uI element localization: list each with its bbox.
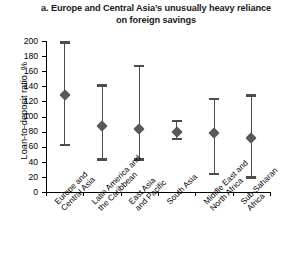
figure-panel-a: a. Europe and Central Asia’s unusually h… [0,0,281,263]
data-point-marker [208,127,219,138]
chart-title-line-1: a. Europe and Central Asia’s unusually h… [41,3,235,13]
error-bar-cap-lower [172,138,182,140]
y-axis-tick-label: 60 [12,142,38,151]
data-point-marker [96,120,107,131]
data-point-marker [171,126,182,137]
data-point-marker [246,132,257,143]
y-axis-tick-label: 40 [12,158,38,167]
error-bar-cap-lower [209,173,219,175]
y-axis-tick-label: 100 [12,112,38,121]
x-axis-tick [195,192,196,196]
chart-title: a. Europe and Central Asia’s unusually h… [36,3,276,26]
y-axis-tick-label: 140 [12,82,38,91]
data-point-marker [134,123,145,134]
y-axis-tick-label: 160 [12,67,38,76]
error-bar-cap-lower [60,144,70,146]
error-bar-cap-upper [246,94,256,96]
y-axis-tick-label: 120 [12,97,38,106]
x-axis-tick [46,192,47,196]
error-bar-cap-upper [209,98,219,100]
y-axis-tick-label: 80 [12,127,38,136]
error-bar-cap-upper [60,41,70,43]
y-axis-tick-label: 0 [12,188,38,197]
error-bar-cap-upper [134,65,144,67]
y-axis-tick-label: 200 [12,37,38,46]
error-bar-cap-upper [172,120,182,122]
error-bar-cap-lower [97,158,107,160]
y-axis-tick-label: 180 [12,52,38,61]
error-bar-line [139,66,140,160]
y-axis-tick-label: 20 [12,173,38,182]
error-bar-cap-upper [97,84,107,86]
data-point-marker [59,90,70,101]
